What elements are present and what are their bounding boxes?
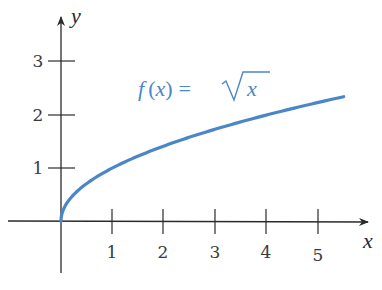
radical-sign-icon bbox=[222, 72, 270, 100]
chart-canvas: 1 2 3 4 5 1 2 3 x y f(x)= x bbox=[0, 0, 382, 290]
x-tick-label-4: 4 bbox=[261, 242, 272, 262]
formula-annotation: f(x)= x bbox=[138, 72, 270, 101]
y-tick-label-3: 3 bbox=[33, 51, 44, 71]
x-tick-label-2: 2 bbox=[158, 242, 169, 262]
sqrt-curve bbox=[61, 97, 344, 221]
y-tick-label-1: 1 bbox=[33, 158, 44, 178]
x-axis-label: x bbox=[362, 228, 373, 253]
x-tick-label-1: 1 bbox=[107, 242, 118, 262]
y-axis-label: y bbox=[69, 3, 81, 28]
y-tick-label-2: 2 bbox=[33, 105, 44, 125]
x-tick-label-3: 3 bbox=[210, 242, 221, 262]
x-tick-label-5: 5 bbox=[313, 245, 324, 265]
svg-text:x: x bbox=[246, 76, 257, 101]
svg-text:f(x)=: f(x)= bbox=[138, 76, 191, 101]
